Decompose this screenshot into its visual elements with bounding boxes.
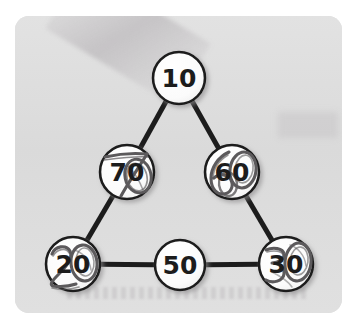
node-bottom-right[interactable]: 30 — [259, 237, 313, 291]
scanned-worksheet-page: 10 70 60 — [0, 0, 357, 327]
node-top[interactable]: 10 — [153, 52, 205, 104]
node-bottom-right-label: 30 — [269, 250, 304, 279]
node-bottom-left-label: 20 — [56, 250, 91, 279]
node-bottom-left[interactable]: 20 — [46, 237, 100, 291]
node-mid-left[interactable]: 70 — [100, 145, 154, 199]
node-mid-right[interactable]: 60 — [205, 145, 259, 199]
node-mid-right-label: 60 — [215, 158, 250, 187]
node-mid-left-label: 70 — [110, 158, 145, 187]
triangle-number-diagram: 10 70 60 — [0, 0, 357, 327]
node-bottom-middle[interactable]: 50 — [155, 240, 205, 290]
node-bottom-middle-label: 50 — [163, 251, 198, 280]
node-top-label: 10 — [162, 64, 197, 93]
